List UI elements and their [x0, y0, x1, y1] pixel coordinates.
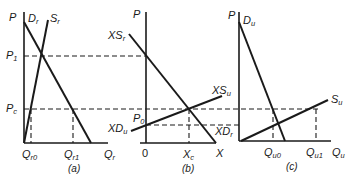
label-xc: Xc	[182, 148, 194, 162]
label-qr0: Qr0	[22, 148, 38, 162]
panel-a: P Dr Sr P1 Pc Qr0 Qr1 Qr (a)	[6, 11, 116, 174]
label-pc: Pc	[6, 102, 17, 116]
label-qu0: Qu0	[264, 146, 282, 160]
label-qr1: Qr1	[64, 148, 79, 162]
label-qu1: Qu1	[306, 146, 323, 160]
supply-curve-r	[24, 20, 48, 143]
label-sr: Sr	[50, 12, 60, 26]
demand-curve-r	[24, 22, 91, 143]
label-qr-axis: Qr	[104, 148, 116, 162]
label-xsr: XSr	[107, 29, 126, 43]
label-p0: P0	[133, 112, 145, 126]
label-x-axis: X	[215, 147, 224, 159]
label-dr: Dr	[28, 12, 39, 26]
label-su: Su	[331, 93, 343, 107]
label-qu-axis: Qu	[332, 146, 346, 160]
label-origin: 0	[142, 147, 148, 159]
excess-supply-u-curve	[131, 96, 222, 131]
panel-c: P Du Su Qu0 Qu1 Qu (c)	[228, 9, 346, 172]
supply-curve-u	[241, 100, 328, 141]
panel-b-p-label: P	[133, 8, 141, 20]
label-p1: P1	[6, 49, 18, 63]
caption-c: (c)	[286, 161, 298, 172]
caption-a: (a)	[68, 163, 80, 174]
caption-b: (b)	[182, 163, 194, 174]
label-du: Du	[243, 14, 256, 28]
panel-b: P XSr XSu XDu XDr P0 0 Xc X (b)	[107, 8, 240, 174]
label-xdu: XDu	[107, 122, 128, 136]
panel-c-p-label: P	[228, 9, 236, 21]
label-xdr: XDr	[214, 125, 233, 139]
label-xsu: XSu	[211, 84, 232, 98]
trade-diagram: P Dr Sr P1 Pc Qr0 Qr1 Qr (a) P XSr XSu X…	[0, 0, 349, 179]
panel-a-p-label: P	[9, 11, 17, 23]
